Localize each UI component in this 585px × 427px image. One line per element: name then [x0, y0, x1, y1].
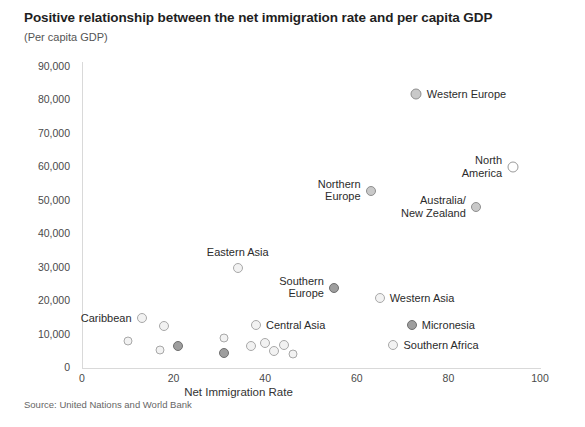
data-point-australia-new-zealand[interactable]: [471, 202, 481, 212]
data-point[interactable]: [279, 340, 289, 350]
x-tick-label: 40: [259, 372, 271, 384]
data-point-micronesia[interactable]: [407, 320, 417, 330]
data-point-label: Micronesia: [422, 318, 475, 331]
data-point[interactable]: [288, 349, 297, 358]
data-point[interactable]: [269, 346, 279, 356]
data-point-southern-africa[interactable]: [388, 340, 398, 350]
data-point-label: Northern Europe: [318, 178, 361, 203]
data-point[interactable]: [159, 321, 169, 331]
data-point-western-europe[interactable]: [411, 88, 422, 99]
data-point-label: North America: [462, 155, 502, 180]
data-point-label: Western Europe: [427, 87, 506, 100]
data-point-label: Southern Africa: [403, 338, 478, 351]
data-point-western-asia[interactable]: [375, 293, 385, 303]
plot-area: 010,00020,00030,00040,00050,00060,00070,…: [0, 0, 585, 427]
y-tick-label: 70,000: [0, 127, 70, 139]
y-tick-label: 20,000: [0, 294, 70, 306]
y-tick-label: 40,000: [0, 227, 70, 239]
data-point-label: Central Asia: [266, 318, 325, 331]
x-tick-label: 20: [168, 372, 180, 384]
data-point[interactable]: [173, 341, 183, 351]
x-tick-label: 80: [443, 372, 455, 384]
y-tick-label: 30,000: [0, 261, 70, 273]
data-point-central-asia[interactable]: [251, 320, 261, 330]
y-tick-label: 50,000: [0, 194, 70, 206]
x-tick-label: 60: [351, 372, 363, 384]
data-point-northern-europe[interactable]: [366, 186, 376, 196]
data-point[interactable]: [123, 337, 132, 346]
data-point-eastern-asia[interactable]: [233, 263, 243, 273]
data-point-label: Caribbean: [81, 312, 132, 325]
x-axis-title-text: Net Immigration Rate: [184, 386, 293, 398]
data-point-label: Western Asia: [390, 291, 455, 304]
chart-root: Positive relationship between the net im…: [0, 0, 585, 427]
source-note: Source: United Nations and World Bank: [24, 399, 192, 410]
data-point-label: Southern Europe: [279, 275, 324, 300]
y-tick-label: 10,000: [0, 328, 70, 340]
data-point-caribbean[interactable]: [137, 313, 147, 323]
data-point[interactable]: [260, 338, 270, 348]
data-point-southern-europe[interactable]: [329, 283, 339, 293]
data-point-label: Eastern Asia: [207, 246, 269, 259]
data-point-north-america[interactable]: [507, 162, 518, 173]
y-tick-label: 60,000: [0, 160, 70, 172]
data-point[interactable]: [246, 341, 256, 351]
data-point[interactable]: [155, 345, 164, 354]
x-tick-label: 0: [79, 372, 85, 384]
x-axis-line: [82, 368, 541, 369]
data-point-label: Australia/ New Zealand: [401, 195, 466, 220]
data-point[interactable]: [219, 348, 229, 358]
y-tick-label: 90,000: [0, 60, 70, 72]
y-tick-label: 80,000: [0, 93, 70, 105]
x-axis-title: Net Immigration Rate: [0, 386, 585, 398]
x-tick-label: 100: [531, 372, 549, 384]
y-tick-label: 0: [0, 361, 70, 373]
data-point[interactable]: [219, 333, 228, 342]
